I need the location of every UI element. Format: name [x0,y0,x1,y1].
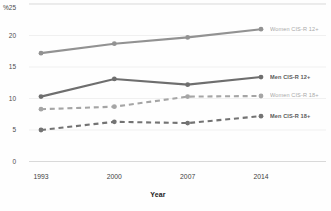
data-point-men-cis-r-12-2014 [259,75,264,80]
series-end-label-men-cis-r-12: Men CIS-R 12+ [270,74,331,81]
data-point-women-cis-r-18-2000 [112,104,117,109]
y-tick-label-20: 20 [0,32,16,40]
series-end-label-women-cis-r-12: Women CIS-R 12+ [270,26,331,33]
x-tick-label-2014: 2014 [244,172,278,181]
x-tick-label-1993: 1993 [24,172,58,181]
x-tick-label-2007: 2007 [171,172,205,181]
data-point-women-cis-r-12-2000 [112,41,117,46]
series-end-label-men-cis-r-18: Men CIS-R 18+ [270,113,331,120]
series-line-women-cis-r-18 [41,96,261,109]
series-line-men-cis-r-12 [41,77,261,97]
data-point-men-cis-r-12-2000 [112,77,117,82]
y-tick-label-10: 10 [0,95,16,103]
y-tick-label-25: 25 [0,4,16,12]
data-point-women-cis-r-12-1993 [39,51,44,56]
y-tick-label-15: 15 [0,63,16,71]
data-point-men-cis-r-12-1993 [39,94,44,99]
data-point-women-cis-r-18-2014 [259,94,264,99]
data-point-women-cis-r-12-2014 [259,27,264,32]
data-point-men-cis-r-18-2007 [185,121,190,126]
data-point-men-cis-r-18-1993 [39,128,44,133]
line-chart: % Year 05101520251993200020072014Women C… [0,0,331,211]
data-point-women-cis-r-18-2007 [185,94,190,99]
series-line-men-cis-r-18 [41,116,261,130]
data-point-men-cis-r-18-2000 [112,119,117,124]
series-end-label-women-cis-r-18: Women CIS-R 18+ [270,92,331,99]
data-point-men-cis-r-12-2007 [185,82,190,87]
y-tick-label-0: 0 [0,158,16,166]
x-tick-label-2000: 2000 [97,172,131,181]
data-point-women-cis-r-12-2007 [185,35,190,40]
data-point-women-cis-r-18-1993 [39,107,44,112]
y-tick-label-5: 5 [0,126,16,134]
x-axis-title: Year [0,191,316,198]
data-point-men-cis-r-18-2014 [259,114,264,119]
series-line-women-cis-r-12 [41,29,261,53]
